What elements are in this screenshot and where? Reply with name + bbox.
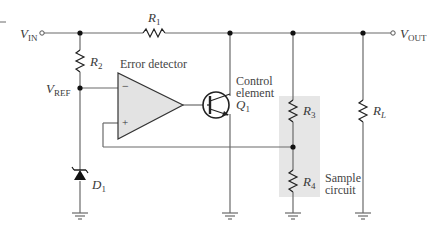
r4-label: R4: [303, 175, 315, 191]
d1-label: D1: [92, 178, 106, 194]
vref-label: VREF: [46, 82, 70, 98]
rl-label: RL: [373, 104, 386, 120]
r1-main: R: [148, 10, 156, 25]
vref-main: V: [46, 81, 54, 96]
d1-main: D: [92, 177, 101, 192]
r1-sub: 1: [156, 17, 161, 27]
r3-label: R3: [303, 104, 315, 120]
rl-sub: L: [381, 110, 386, 120]
vout-sub: OUT: [408, 33, 427, 43]
vin-main: V: [20, 26, 28, 41]
resistor-r2-zigzag: [76, 50, 84, 72]
r2-main: R: [90, 54, 98, 69]
r2-sub: 2: [98, 61, 103, 71]
rl-main: R: [373, 103, 381, 118]
vin-terminal: [40, 31, 44, 35]
opamp-inverting-input-symbol: −: [122, 80, 129, 92]
error-detector-label: Error detector: [120, 58, 187, 70]
resistor-r1-zigzag: [143, 29, 165, 37]
r4-main: R: [303, 174, 311, 189]
d1-sub: 1: [101, 184, 106, 194]
r3-sub: 3: [311, 110, 316, 120]
r4-sub: 4: [311, 181, 316, 191]
q1-label: Q1: [236, 98, 250, 114]
r2-label: R2: [90, 55, 102, 71]
control-element-label-line2: element: [236, 87, 274, 99]
transistor-q1: [203, 92, 230, 118]
sample-circuit-label-line2: circuit: [325, 184, 356, 196]
opamp-noninverting-input-symbol: +: [122, 117, 128, 128]
vout-main: V: [400, 26, 408, 41]
vout-terminal: [391, 31, 395, 35]
vout-label: VOUT: [400, 27, 426, 43]
resistor-rl-zigzag: [359, 100, 367, 122]
r3-main: R: [303, 103, 311, 118]
r1-label: R1: [148, 11, 160, 27]
vin-label: VIN: [20, 27, 37, 43]
vin-sub: IN: [28, 33, 38, 43]
vref-sub: REF: [54, 88, 71, 98]
q1-sub: 1: [245, 104, 250, 114]
